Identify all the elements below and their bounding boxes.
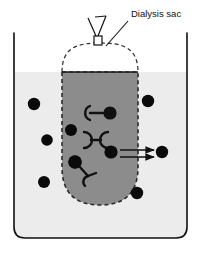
diagram-canvas: Dialysis sac: [0, 0, 204, 256]
sac-tie-right-icon: [98, 16, 106, 36]
dialysis-sac-label: Dialysis sac: [131, 8, 181, 19]
dialysis-sac-group: [62, 43, 138, 205]
sac-tie-left-icon: [88, 18, 96, 36]
small-molecule-dot-inside-0: [65, 124, 77, 136]
dialysis-diagram: Dialysis sac: [0, 0, 204, 256]
small-molecule-dot-outside-2: [41, 134, 53, 146]
small-molecule-dot-outside-4: [38, 176, 50, 188]
small-molecule-dot-outside-1: [142, 95, 154, 107]
small-molecule-dot-outside-0: [28, 98, 40, 110]
small-molecule-dot-inside-1: [69, 156, 82, 169]
small-molecule-dot-outside-3: [156, 146, 168, 158]
sac-clamp: [88, 16, 106, 45]
small-molecule-dot-inside-2: [104, 145, 117, 158]
small-molecule-dot-outside-5: [131, 187, 143, 199]
sac-tie-top-icon: [95, 16, 106, 17]
sac-clamp-box-icon: [94, 36, 102, 45]
sac-dome-membrane: [62, 43, 138, 72]
dialysis-sac-leader-line: [106, 21, 128, 46]
label-group: Dialysis sac: [106, 8, 181, 46]
macromolecule-1-ball: [103, 106, 116, 119]
